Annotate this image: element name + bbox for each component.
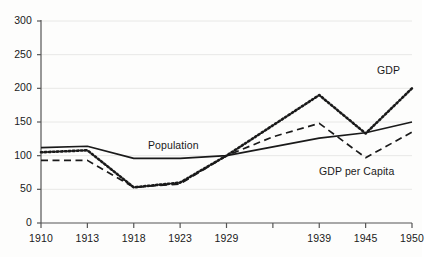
x-axis-tick-label: 1929 [204,232,250,244]
x-axis-tick-label: 1945 [343,232,389,244]
y-axis-tick-label: 50 [0,182,32,194]
y-axis-tick-label: 0 [0,216,32,228]
x-axis-tick-label: 1923 [157,232,203,244]
x-axis-tick-label: 1910 [18,232,64,244]
series-annotation-label: GDP [377,64,400,76]
x-axis-tick-label: 1950 [389,232,429,244]
x-axis-tick-label: 1939 [296,232,342,244]
x-axis-tick-label: 1913 [64,232,110,244]
y-axis-tick-label: 250 [0,48,32,60]
y-axis-tick-label: 150 [0,115,32,127]
x-axis-tick-label: 1918 [111,232,157,244]
y-axis-tick-label: 300 [0,14,32,26]
y-axis-tick-label: 100 [0,149,32,161]
series-annotation-label: Population [148,139,199,151]
series-line-population [41,122,412,158]
series-annotation-label: GDP per Capita [319,165,394,177]
y-axis-tick-label: 200 [0,81,32,93]
